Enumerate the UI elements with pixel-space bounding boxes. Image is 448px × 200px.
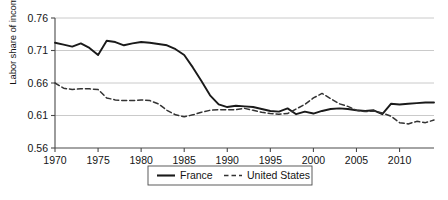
- x-tick-label: 2010: [388, 154, 412, 166]
- x-tick-label: 1975: [86, 154, 110, 166]
- legend-label-france: France: [180, 169, 213, 181]
- y-tick-label: 0.71: [28, 44, 49, 56]
- x-axis-ticks: 197019751980198519901995200020052010: [43, 148, 411, 166]
- y-tick-label: 0.66: [28, 77, 49, 89]
- y-axis-ticks: 0.560.610.660.710.76: [28, 12, 55, 154]
- chart-plot-area: 0.560.610.660.710.76 1970197519801985199…: [0, 0, 448, 200]
- y-tick-label: 0.61: [28, 109, 49, 121]
- chart-legend: FranceUnited States: [148, 166, 312, 185]
- x-tick-label: 2005: [345, 154, 369, 166]
- x-tick-label: 2000: [302, 154, 326, 166]
- x-tick-label: 1990: [216, 154, 240, 166]
- series-line-france: [55, 41, 434, 114]
- data-series: [55, 41, 434, 124]
- legend-label-united-states: United States: [247, 169, 310, 181]
- series-line-united-states: [55, 83, 434, 124]
- labor-share-line-chart: Labor share of income 0.560.610.660.710.…: [0, 0, 448, 200]
- y-tick-label: 0.56: [28, 142, 49, 154]
- x-tick-label: 1970: [43, 154, 67, 166]
- gridlines: [55, 18, 434, 116]
- x-tick-label: 1980: [129, 154, 153, 166]
- x-tick-label: 1995: [259, 154, 283, 166]
- y-tick-label: 0.76: [28, 12, 49, 24]
- x-tick-label: 1985: [173, 154, 197, 166]
